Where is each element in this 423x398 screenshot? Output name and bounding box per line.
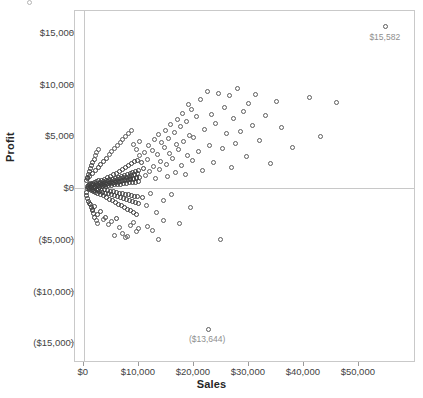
data-point[interactable]: [134, 212, 139, 217]
data-point[interactable]: [150, 148, 155, 153]
data-point[interactable]: [177, 221, 182, 226]
data-point[interactable]: [216, 91, 221, 96]
data-point[interactable]: [190, 158, 195, 163]
data-point[interactable]: [134, 147, 139, 152]
data-point[interactable]: [112, 233, 117, 238]
data-point[interactable]: [186, 102, 191, 107]
data-point[interactable]: [158, 159, 163, 164]
data-point[interactable]: [163, 128, 168, 133]
data-point[interactable]: [257, 138, 262, 143]
data-point[interactable]: [157, 167, 162, 172]
data-point[interactable]: [162, 145, 167, 150]
data-point[interactable]: [153, 176, 158, 181]
data-point[interactable]: [222, 105, 227, 110]
data-point[interactable]: [141, 166, 146, 171]
data-point[interactable]: [161, 198, 166, 203]
data-point[interactable]: [140, 195, 145, 200]
data-point[interactable]: [246, 101, 251, 106]
data-point[interactable]: [205, 89, 210, 94]
data-point[interactable]: [207, 143, 212, 148]
data-point[interactable]: [151, 164, 156, 169]
data-point[interactable]: [154, 210, 159, 215]
data-point[interactable]: [139, 160, 144, 165]
data-point[interactable]: [194, 114, 199, 119]
data-point[interactable]: [95, 221, 100, 226]
data-point[interactable]: [198, 97, 203, 102]
data-point[interactable]: [150, 228, 155, 233]
data-point[interactable]: [235, 86, 240, 91]
data-point[interactable]: [117, 225, 122, 230]
data-point[interactable]: [145, 157, 150, 162]
data-point[interactable]: [334, 100, 339, 105]
data-point[interactable]: [152, 137, 157, 142]
data-point[interactable]: [263, 113, 268, 118]
data-point[interactable]: [136, 201, 141, 206]
data-point[interactable]: [137, 175, 142, 180]
data-point[interactable]: [165, 174, 170, 179]
data-point[interactable]: [166, 136, 171, 141]
data-point[interactable]: [209, 112, 214, 117]
data-point[interactable]: [137, 139, 142, 144]
data-point[interactable]: [250, 123, 255, 128]
data-point[interactable]: [244, 154, 249, 159]
data-point[interactable]: [103, 215, 108, 220]
data-point[interactable]: [307, 95, 312, 100]
data-point[interactable]: [180, 111, 185, 116]
data-point[interactable]: [168, 122, 173, 127]
data-point[interactable]: [233, 141, 238, 146]
data-point[interactable]: [169, 192, 174, 197]
data-point[interactable]: [98, 209, 103, 214]
data-point[interactable]: [227, 93, 232, 98]
data-point[interactable]: [191, 135, 196, 140]
data-point[interactable]: [274, 99, 279, 104]
data-point[interactable]: [181, 139, 186, 144]
data-point[interactable]: [213, 121, 218, 126]
data-point[interactable]: [131, 220, 136, 225]
data-point[interactable]: [253, 92, 258, 97]
data-point[interactable]: [156, 132, 161, 137]
data-point[interactable]: [241, 109, 246, 114]
data-point[interactable]: [176, 147, 181, 152]
data-point[interactable]: [220, 146, 225, 151]
data-point[interactable]: [148, 191, 153, 196]
data-point[interactable]: [206, 327, 211, 332]
data-point[interactable]: [170, 156, 175, 161]
data-point[interactable]: [238, 129, 243, 134]
data-point[interactable]: [211, 160, 216, 165]
data-point[interactable]: [185, 153, 190, 158]
data-point[interactable]: [136, 226, 141, 231]
data-point[interactable]: [114, 216, 119, 221]
data-point[interactable]: [218, 237, 223, 242]
data-point[interactable]: [231, 116, 236, 121]
data-point[interactable]: [279, 125, 284, 130]
data-point[interactable]: [164, 162, 169, 167]
data-point[interactable]: [318, 134, 323, 139]
data-point[interactable]: [155, 152, 160, 157]
data-point[interactable]: [202, 127, 207, 132]
data-point[interactable]: [383, 24, 388, 29]
data-point[interactable]: [147, 169, 152, 174]
data-point[interactable]: [173, 170, 178, 175]
data-point[interactable]: [142, 150, 147, 155]
data-point[interactable]: [268, 161, 273, 166]
data-point[interactable]: [156, 237, 161, 242]
data-point[interactable]: [96, 147, 101, 152]
data-point[interactable]: [290, 145, 295, 150]
data-point[interactable]: [200, 168, 205, 173]
data-point[interactable]: [175, 117, 180, 122]
data-point[interactable]: [178, 124, 183, 129]
data-point[interactable]: [129, 128, 134, 133]
data-point[interactable]: [144, 203, 149, 208]
data-point[interactable]: [184, 119, 189, 124]
data-point[interactable]: [109, 219, 114, 224]
data-point[interactable]: [229, 165, 234, 170]
data-point[interactable]: [137, 153, 142, 158]
data-point[interactable]: [189, 107, 194, 112]
data-point[interactable]: [179, 163, 184, 168]
data-point[interactable]: [183, 172, 188, 177]
data-point[interactable]: [172, 130, 177, 135]
data-point[interactable]: [196, 149, 201, 154]
data-point[interactable]: [188, 205, 193, 210]
data-point[interactable]: [125, 234, 130, 239]
data-point[interactable]: [161, 218, 166, 223]
